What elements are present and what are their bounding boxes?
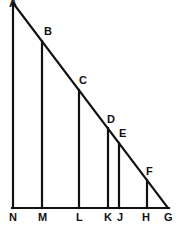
geometry-figure: A B C D E F N M L K J H G xyxy=(0,0,181,244)
hypotenuse-A-G xyxy=(13,3,168,208)
base-label-G: G xyxy=(164,212,173,223)
triangle-diagram-svg xyxy=(0,0,181,244)
base-label-N: N xyxy=(9,212,17,223)
base-label-L: L xyxy=(76,212,83,223)
vertex-label-C: C xyxy=(79,75,87,86)
vertex-label-A: A xyxy=(9,0,17,9)
vertex-label-F: F xyxy=(146,166,153,177)
base-label-J: J xyxy=(117,212,123,223)
vertex-label-E: E xyxy=(119,128,126,139)
vertex-label-D: D xyxy=(107,114,115,125)
base-label-H: H xyxy=(142,212,150,223)
base-label-K: K xyxy=(104,212,112,223)
base-label-M: M xyxy=(38,212,47,223)
figure-geometry xyxy=(12,3,169,208)
vertex-label-B: B xyxy=(44,26,52,37)
